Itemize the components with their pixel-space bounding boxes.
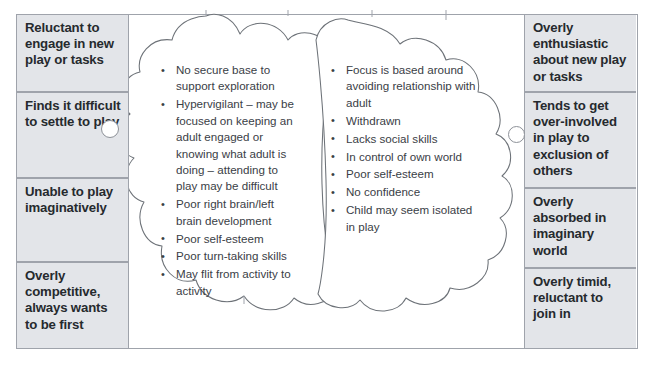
- side-box-label: Overly enthusiastic about new play or ta…: [533, 20, 626, 84]
- bullet-text: Focus is based around avoiding relations…: [346, 63, 476, 109]
- side-box-reluctant-to-engage[interactable]: Reluctant to engage in new play or tasks: [17, 14, 129, 92]
- bullet-item: In control of own world: [330, 149, 480, 165]
- left-cloud-bullet-list: No secure base to support exploration Hy…: [160, 62, 302, 301]
- bullet-text: Poor self-esteem: [176, 232, 264, 245]
- bullet-item: Focus is based around avoiding relations…: [330, 62, 480, 111]
- bullet-text: May flit from activity to activity: [176, 267, 291, 296]
- bullet-item: Child may seem isolated in play: [330, 202, 480, 235]
- bullet-item: Poor self-esteem: [330, 166, 480, 182]
- side-box-label: Overly timid, reluctant to join in: [533, 274, 611, 321]
- side-box-tends-to-get-involved[interactable]: Tends to get over-involved in play to ex…: [524, 92, 636, 188]
- side-box-overly-absorbed[interactable]: Overly absorbed in imaginary world: [524, 188, 636, 268]
- left-behaviour-column: Reluctant to engage in new play or tasks…: [17, 14, 129, 349]
- bullet-text: No secure base to support exploration: [176, 63, 275, 92]
- right-connector-knob: [508, 126, 525, 143]
- bullet-item: Poor turn-taking skills: [160, 248, 302, 264]
- bullet-item: May flit from activity to activity: [160, 266, 302, 299]
- bullet-text: Poor right brain/left brain development: [176, 197, 274, 226]
- bullet-text: Child may seem isolated in play: [346, 203, 472, 232]
- side-box-label: Overly absorbed in imaginary world: [533, 194, 606, 258]
- bullet-item: No secure base to support exploration: [160, 62, 302, 95]
- diagram-canvas: Reluctant to engage in new play or tasks…: [0, 0, 653, 365]
- side-box-overly-competitive[interactable]: Overly competitive, always wants to be f…: [17, 262, 129, 349]
- bullet-item: No confidence: [330, 184, 480, 200]
- bullet-item: Poor right brain/left brain development: [160, 196, 302, 229]
- side-box-overly-enthusiastic[interactable]: Overly enthusiastic about new play or ta…: [524, 14, 636, 92]
- bullet-text: No confidence: [346, 185, 420, 198]
- bullet-item: Hypervigilant – may be focused on keepin…: [160, 96, 302, 194]
- bullet-text: In control of own world: [346, 150, 462, 163]
- side-box-label: Unable to play imaginatively: [25, 184, 113, 215]
- side-box-overly-timid[interactable]: Overly timid, reluctant to join in: [524, 268, 636, 349]
- right-behaviour-column: Overly enthusiastic about new play or ta…: [524, 14, 636, 349]
- left-connector-knob: [101, 120, 119, 138]
- side-box-label: Overly competitive, always wants to be f…: [25, 268, 108, 332]
- bullet-item: Lacks social skills: [330, 131, 480, 147]
- side-box-label: Tends to get over-involved in play to ex…: [533, 98, 617, 178]
- bullet-text: Withdrawn: [346, 114, 401, 127]
- side-box-label: Reluctant to engage in new play or tasks: [25, 20, 114, 67]
- bullet-item: Poor self-esteem: [160, 231, 302, 247]
- bullet-item: Withdrawn: [330, 113, 480, 129]
- bullet-text: Poor self-esteem: [346, 167, 434, 180]
- bullet-text: Poor turn-taking skills: [176, 249, 287, 262]
- bullet-text: Hypervigilant – may be focused on keepin…: [176, 97, 294, 192]
- bullet-text: Lacks social skills: [346, 132, 438, 145]
- right-cloud-bullet-list: Focus is based around avoiding relations…: [330, 62, 480, 237]
- side-box-unable-to-play[interactable]: Unable to play imaginatively: [17, 178, 129, 262]
